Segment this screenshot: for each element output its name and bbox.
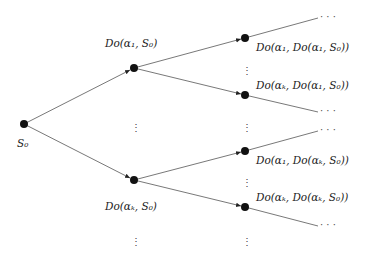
- node-s0: [20, 120, 28, 128]
- vertical-ellipsis-level2-d: ⋮: [242, 236, 252, 247]
- ellipsis-continuation-3: · · ·: [320, 124, 336, 135]
- edge-to-continuation-4: [245, 207, 318, 226]
- edge-ak-to-a1ak: [134, 152, 241, 180]
- edge-to-continuation-3: [245, 131, 318, 151]
- vertical-ellipsis-level2-c: ⋮: [242, 177, 252, 188]
- vertical-ellipsis-level2-a: ⋮: [242, 65, 252, 76]
- ellipsis-continuation-2: · · ·: [320, 105, 336, 116]
- situation-tree-diagram: S₀ Do(α₁, S₀) Do(αₖ, S₀) Do(α₁, Do(α₁, S…: [0, 0, 372, 262]
- label-do-ak-do-ak-s0: Do(αₖ, Do(αₖ, S₀)): [255, 191, 348, 203]
- edge-a1-to-aka1: [134, 68, 241, 94]
- edge-to-continuation-2: [245, 95, 318, 112]
- node-do-ak-s0: [130, 176, 138, 184]
- vertical-ellipsis-level2-b: ⋮: [242, 122, 252, 133]
- ellipsis-continuation-4: · · ·: [320, 219, 336, 230]
- ellipsis-continuation-1: · · ·: [320, 11, 336, 22]
- node-do-a1-do-a1-s0: [241, 34, 249, 42]
- label-do-a1-s0: Do(α₁, S₀): [104, 37, 157, 49]
- label-s0: S₀: [17, 137, 29, 149]
- edge-root-to-a1: [24, 70, 130, 124]
- edge-root-to-ak: [24, 124, 130, 178]
- label-do-ak-do-a1-s0: Do(αₖ, Do(α₁, S₀)): [255, 79, 349, 91]
- node-do-a1-do-ak-s0: [241, 147, 249, 155]
- node-do-ak-do-a1-s0: [241, 91, 249, 99]
- vertical-ellipsis-level1-mid: ⋮: [131, 122, 141, 133]
- label-do-a1-do-ak-s0: Do(α₁, Do(αₖ, S₀)): [255, 154, 349, 166]
- label-do-a1-do-a1-s0: Do(α₁, Do(α₁, S₀)): [255, 41, 349, 53]
- node-do-a1-s0: [130, 64, 138, 72]
- edge-to-continuation-1: [245, 18, 318, 38]
- label-do-ak-s0: Do(αₖ, S₀): [104, 200, 157, 212]
- vertical-ellipsis-level1-bottom: ⋮: [131, 236, 141, 247]
- node-do-ak-do-ak-s0: [241, 203, 249, 211]
